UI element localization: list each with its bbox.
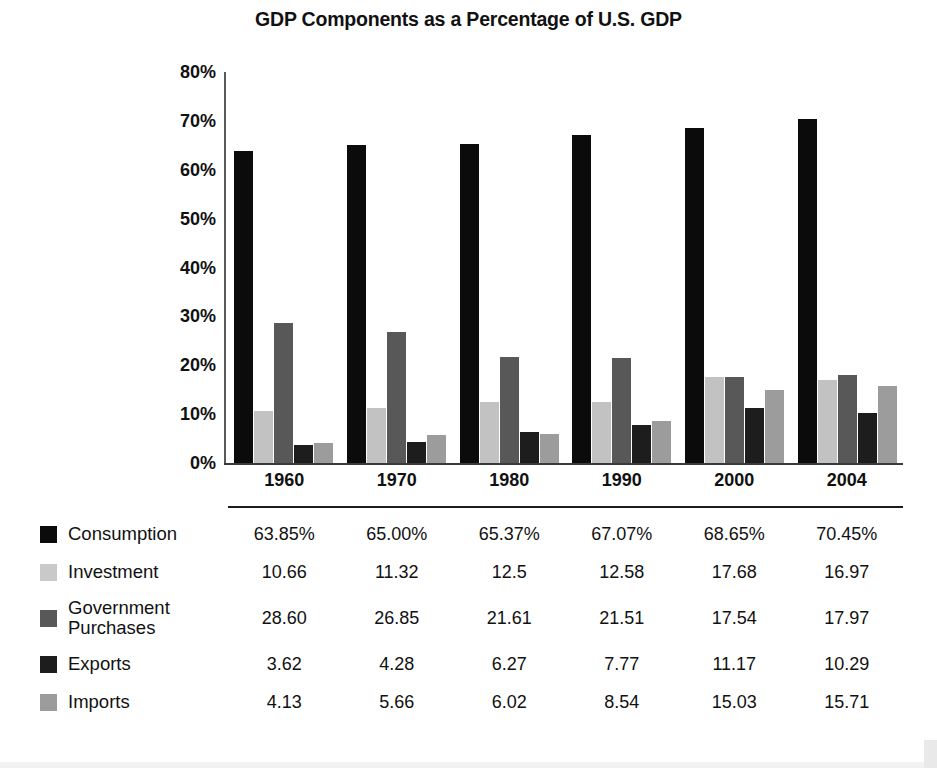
y-tick-20: 20% [146, 355, 216, 376]
year-header-1970: 1970 [341, 470, 454, 500]
value-consumption-2004: 70.45% [791, 524, 904, 545]
bar-imports-1990 [652, 421, 671, 463]
value-consumption-1960: 63.85% [228, 524, 341, 545]
value-investment-2000: 17.68 [678, 562, 791, 583]
value-government-purchases-1970: 26.85 [341, 608, 454, 629]
legend-item-imports[interactable]: Imports [0, 692, 228, 712]
legend-item-investment[interactable]: Investment [0, 562, 228, 582]
legend-item-exports[interactable]: Exports [0, 654, 228, 674]
value-consumption-1970: 65.00% [341, 524, 454, 545]
x-axis-line [224, 463, 903, 465]
bar-investment-1970 [367, 408, 386, 463]
page-right-edge [924, 740, 937, 768]
year-header-2000: 2000 [678, 470, 791, 500]
bar-imports-2000 [765, 390, 784, 464]
value-consumption-1990: 67.07% [566, 524, 679, 545]
legend-swatch-investment-icon [40, 564, 57, 581]
value-cells-consumption: 63.85%65.00%65.37%67.07%68.65%70.45% [228, 524, 903, 545]
legend-item-government-purchases[interactable]: Government Purchases [0, 598, 228, 638]
table-row: Investment10.6611.3212.512.5817.6816.97 [0, 553, 937, 591]
legend-label-government-purchases: Government Purchases [68, 598, 170, 638]
bar-investment-1960 [254, 411, 273, 463]
value-government-purchases-1990: 21.51 [566, 608, 679, 629]
y-tick-0: 0% [146, 453, 216, 474]
value-exports-2000: 11.17 [678, 654, 791, 675]
bar-consumption-1990 [572, 135, 591, 463]
bar-group-1960 [226, 72, 339, 463]
value-exports-1960: 3.62 [228, 654, 341, 675]
y-tick-80: 80% [146, 62, 216, 83]
value-imports-2000: 15.03 [678, 692, 791, 713]
value-cells-exports: 3.624.286.277.7711.1710.29 [228, 654, 903, 675]
page-bottom-edge [0, 762, 937, 768]
value-exports-2004: 10.29 [791, 654, 904, 675]
value-exports-1990: 7.77 [566, 654, 679, 675]
bar-investment-1980 [480, 402, 499, 463]
year-header-2004: 2004 [791, 470, 904, 500]
bar-consumption-1970 [347, 145, 366, 463]
legend-data-table: Consumption63.85%65.00%65.37%67.07%68.65… [0, 515, 937, 721]
bar-government-purchases-1990 [612, 358, 631, 463]
value-cells-investment: 10.6611.3212.512.5817.6816.97 [228, 562, 903, 583]
legend-item-consumption[interactable]: Consumption [0, 524, 228, 544]
bar-consumption-2004 [798, 119, 817, 463]
table-row: Imports4.135.666.028.5415.0315.71 [0, 683, 937, 721]
bar-exports-2004 [858, 413, 877, 463]
bar-group-2000 [677, 72, 790, 463]
y-tick-50: 50% [146, 208, 216, 229]
bar-government-purchases-2000 [725, 377, 744, 463]
value-investment-1970: 11.32 [341, 562, 454, 583]
bar-exports-1970 [407, 442, 426, 463]
year-header-row: 196019701980199020002004 [228, 470, 903, 500]
value-cells-imports: 4.135.666.028.5415.0315.71 [228, 692, 903, 713]
bar-exports-1960 [294, 445, 313, 463]
bar-investment-1990 [592, 402, 611, 464]
bar-imports-1970 [427, 435, 446, 463]
value-imports-1980: 6.02 [453, 692, 566, 713]
table-row: Consumption63.85%65.00%65.37%67.07%68.65… [0, 515, 937, 553]
value-government-purchases-1980: 21.61 [453, 608, 566, 629]
table-row: Government Purchases28.6026.8521.6121.51… [0, 591, 937, 645]
legend-swatch-imports-icon [40, 694, 57, 711]
legend-label-consumption: Consumption [68, 524, 177, 544]
y-tick-30: 30% [146, 306, 216, 327]
y-tick-60: 60% [146, 159, 216, 180]
value-imports-1960: 4.13 [228, 692, 341, 713]
legend-swatch-exports-icon [40, 656, 57, 673]
bar-consumption-1980 [460, 144, 479, 464]
bar-investment-2000 [705, 377, 724, 463]
y-tick-40: 40% [146, 257, 216, 278]
year-header-1980: 1980 [453, 470, 566, 500]
legend-swatch-consumption-icon [40, 526, 57, 543]
value-investment-1980: 12.5 [453, 562, 566, 583]
bar-investment-2004 [818, 380, 837, 463]
legend-label-imports: Imports [68, 692, 130, 712]
value-imports-2004: 15.71 [791, 692, 904, 713]
value-consumption-2000: 68.65% [678, 524, 791, 545]
legend-swatch-government-purchases-icon [40, 610, 57, 627]
legend-label-investment: Investment [68, 562, 159, 582]
bar-exports-1980 [520, 432, 539, 463]
y-tick-70: 70% [146, 110, 216, 131]
value-investment-1990: 12.58 [566, 562, 679, 583]
bar-government-purchases-2004 [838, 375, 857, 463]
bar-group-1980 [452, 72, 565, 463]
value-government-purchases-2004: 17.97 [791, 608, 904, 629]
y-axis-tick-labels: 80% 70% 60% 50% 40% 30% 20% 10% 0% [144, 72, 216, 463]
value-exports-1970: 4.28 [341, 654, 454, 675]
value-cells-government-purchases: 28.6026.8521.6121.5117.5417.97 [228, 608, 903, 629]
bar-imports-2004 [878, 386, 897, 463]
y-tick-10: 10% [146, 404, 216, 425]
page-title: GDP Components as a Percentage of U.S. G… [0, 8, 937, 31]
value-government-purchases-2000: 17.54 [678, 608, 791, 629]
table-row: Exports3.624.286.277.7711.1710.29 [0, 645, 937, 683]
header-divider [228, 506, 903, 508]
bar-group-1970 [339, 72, 452, 463]
bar-consumption-2000 [685, 128, 704, 464]
value-investment-1960: 10.66 [228, 562, 341, 583]
year-header-1990: 1990 [566, 470, 679, 500]
bar-exports-1990 [632, 425, 651, 463]
bar-imports-1960 [314, 443, 333, 463]
value-government-purchases-1960: 28.60 [228, 608, 341, 629]
value-imports-1970: 5.66 [341, 692, 454, 713]
